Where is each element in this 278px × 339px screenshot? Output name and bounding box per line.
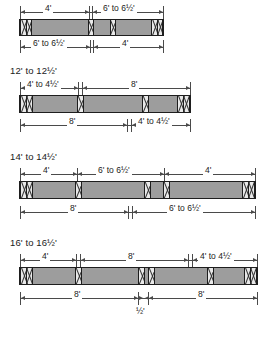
dim-arrow <box>253 296 257 300</box>
top-dimension-line <box>20 174 255 175</box>
dim-arrow <box>251 210 255 214</box>
bottom-dim-label: 8' <box>67 117 77 126</box>
bottom-dim-label: 4' <box>120 39 130 48</box>
dim-tick <box>89 6 90 19</box>
dim-arrow <box>93 10 97 14</box>
bottom-dimension-line <box>20 212 255 213</box>
beam-group-12ft: 12' to 12½' 4' to 4½' 8' <box>0 62 278 146</box>
beam-bar <box>19 95 191 113</box>
top-dim-label: 6' to 6½' <box>96 166 132 175</box>
stud-block <box>75 268 82 284</box>
end-block-right <box>151 20 163 35</box>
beam-group-10ft: 4' 6' to 6½' 6' to 6½' 4' <box>0 0 278 62</box>
top-dim-label: 4' <box>40 252 50 261</box>
top-dim-label: 4' to 4½' <box>198 252 234 261</box>
dim-arrow <box>94 45 98 49</box>
dim-arrow <box>133 210 137 214</box>
dim-tick <box>190 82 191 95</box>
dim-arrow <box>73 172 77 176</box>
dim-arrow <box>149 296 153 300</box>
dim-arrow <box>21 123 25 127</box>
top-dim-label: 8' <box>126 252 136 261</box>
top-dim-label: 4' <box>203 166 213 175</box>
bottom-dim-label: 6' to 6½' <box>31 39 67 48</box>
dim-arrow <box>81 258 85 262</box>
dim-arrow <box>193 258 197 262</box>
end-block-right <box>244 268 257 284</box>
stud-block <box>77 96 84 112</box>
top-dim-label: 4' <box>41 166 51 175</box>
beam-group-14ft: 14' to 14½' 4' 6' to 6½' 4' <box>0 148 278 234</box>
dim-arrow <box>21 172 25 176</box>
dim-tick <box>255 206 256 219</box>
bottom-dim-label: 4' to 4½' <box>136 117 172 126</box>
dim-tick <box>127 119 128 132</box>
dim-arrow <box>21 210 25 214</box>
dim-arrow <box>72 258 76 262</box>
end-block-left <box>20 96 33 112</box>
dim-arrow <box>160 172 164 176</box>
beam-bar <box>19 267 258 285</box>
dim-tick <box>257 254 258 267</box>
beam-bar <box>19 19 164 36</box>
dim-tick <box>163 6 164 19</box>
beam-bar <box>19 181 256 199</box>
bottom-dim-label: 6' to 6½' <box>167 204 203 213</box>
dim-arrow <box>85 10 89 14</box>
dim-arrow <box>124 210 128 214</box>
dim-tick <box>190 119 191 132</box>
end-block-right <box>242 182 255 198</box>
dim-arrow <box>21 10 25 14</box>
dim-arrow <box>165 172 169 176</box>
bottom-dim-label: 8' <box>68 204 78 213</box>
end-block-left <box>20 182 33 198</box>
dim-arrow <box>251 172 255 176</box>
stud-block <box>88 20 94 35</box>
bottom-dim-label: 8' <box>196 290 206 299</box>
dim-arrow <box>159 10 163 14</box>
dim-arrow <box>21 258 25 262</box>
dim-arrow <box>83 86 87 90</box>
diagram-sheet: 4' 6' to 6½' 6' to 6½' 4' <box>0 0 278 339</box>
stud-block <box>163 182 170 198</box>
dim-tick <box>76 254 77 267</box>
dim-arrow <box>186 86 190 90</box>
dim-arrow <box>139 296 143 300</box>
dim-tick <box>163 40 164 53</box>
dim-arrow <box>186 123 190 127</box>
dim-arrow <box>184 258 188 262</box>
dim-arrow <box>21 296 25 300</box>
stud-block <box>110 20 116 35</box>
dim-arrow <box>78 172 82 176</box>
dim-arrow <box>253 258 257 262</box>
dim-arrow <box>86 45 90 49</box>
beam-group-16ft: 16' to 16½' 4' 8' 4' to 4½' <box>0 234 278 339</box>
dim-tick <box>128 206 129 219</box>
stud-block <box>75 182 82 198</box>
dim-arrow <box>134 296 138 300</box>
dim-tick <box>257 292 258 305</box>
top-dim-label: 6' to 6½' <box>101 4 137 13</box>
stud-block-gap-left <box>138 268 145 284</box>
top-dim-label: 4' <box>43 4 53 13</box>
top-dim-label: 4' to 4½' <box>25 80 61 89</box>
end-block-right <box>177 96 190 112</box>
bottom-dim-label: 8' <box>72 290 82 299</box>
end-block-left <box>20 268 33 284</box>
group-title: 12' to 12½' <box>10 65 57 76</box>
dim-tick <box>255 168 256 181</box>
stud-block-gap-right <box>148 268 155 284</box>
gap-note-label: ½' <box>136 306 145 316</box>
stud-block <box>144 182 151 198</box>
dim-arrow <box>145 296 149 300</box>
top-dim-label: 8' <box>129 80 139 89</box>
dim-tick <box>90 40 91 53</box>
group-title: 14' to 14½' <box>10 151 57 162</box>
end-block-left <box>20 20 32 35</box>
stud-block <box>207 268 214 284</box>
group-title: 16' to 16½' <box>10 237 57 248</box>
dim-arrow <box>159 45 163 49</box>
dim-arrow <box>21 45 25 49</box>
dim-arrow <box>123 123 127 127</box>
dim-tick <box>78 82 79 95</box>
